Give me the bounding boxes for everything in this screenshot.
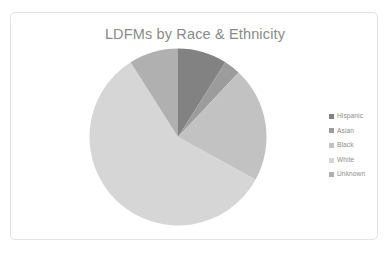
legend-item[interactable]: White <box>329 153 390 168</box>
legend-swatch-icon <box>329 172 334 177</box>
legend-item[interactable]: Unknown <box>329 167 390 182</box>
legend-item-label: White <box>337 153 354 168</box>
pie-slice-group <box>89 49 266 226</box>
legend-item-label: Hispanic <box>337 109 363 124</box>
legend-swatch-icon <box>329 158 334 163</box>
legend-item[interactable]: Black <box>329 138 390 153</box>
chart-title: LDFMs by Race & Ethnicity <box>11 26 379 42</box>
pie-svg <box>89 48 267 226</box>
legend-item[interactable]: Hispanic <box>329 109 390 124</box>
legend-item-label: Unknown <box>337 167 365 182</box>
legend-swatch-icon <box>329 143 334 148</box>
legend-item[interactable]: Asian <box>329 124 390 139</box>
chart-legend: HispanicAsianBlackWhiteUnknown <box>329 109 390 182</box>
legend-item-label: Black <box>337 138 354 153</box>
pie-chart[interactable] <box>89 48 267 226</box>
legend-swatch-icon <box>329 114 334 119</box>
chart-card: LDFMs by Race & Ethnicity HispanicAsianB… <box>10 12 378 240</box>
legend-item-label: Asian <box>337 124 354 139</box>
legend-swatch-icon <box>329 128 334 133</box>
